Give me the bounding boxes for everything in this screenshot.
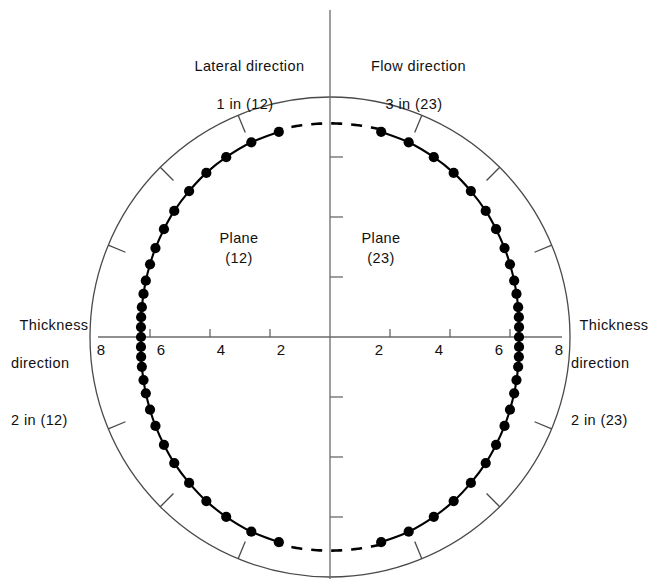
data-point-left-20: [145, 405, 155, 415]
label-plane-12-line2: (12): [225, 250, 252, 266]
data-point-right-12: [514, 312, 524, 322]
data-point-left-24: [184, 478, 194, 488]
data-point-right-13: [514, 322, 524, 332]
data-point-left-28: [274, 537, 284, 547]
label-thickness-right-line1: Thickness: [580, 317, 649, 333]
data-point-right-10: [511, 289, 521, 299]
data-point-left-16: [136, 352, 146, 362]
data-point-left-2: [221, 152, 231, 162]
data-point-right-23: [481, 458, 491, 468]
data-point-right-26: [429, 512, 439, 522]
label-thickness-left-line3: 2 in (12): [11, 411, 103, 430]
data-point-right-2: [429, 152, 439, 162]
data-point-left-3: [201, 168, 211, 178]
data-point-left-14: [136, 332, 146, 342]
data-point-left-13: [136, 322, 146, 332]
data-point-right-1: [404, 137, 414, 147]
data-point-left-7: [150, 243, 160, 253]
radial-tick-6: [108, 422, 125, 429]
data-point-left-18: [138, 375, 148, 385]
data-point-right-19: [509, 388, 519, 398]
radial-tick-7: [160, 494, 173, 507]
data-point-right-18: [511, 375, 521, 385]
label-flow-direction-line1: Flow direction: [371, 58, 466, 74]
data-point-left-4: [184, 186, 194, 196]
label-flow-direction: Flow direction 3 in (23): [336, 38, 492, 133]
label-plane-12-line1: Plane: [219, 230, 258, 246]
label-plane-23-line1: Plane: [361, 230, 400, 246]
data-point-left-12: [136, 312, 146, 322]
label-thickness-left-line2: direction: [11, 354, 103, 373]
radial-tick-0: [535, 245, 552, 252]
radial-tick-9: [415, 542, 422, 559]
data-point-right-9: [509, 276, 519, 286]
data-point-right-6: [491, 224, 501, 234]
data-point-right-14: [514, 332, 524, 342]
data-point-right-20: [505, 405, 515, 415]
radial-tick-5: [108, 245, 125, 252]
plot-area: [90, 10, 570, 579]
label-thickness-direction-left: Thickness direction 2 in (12): [11, 297, 103, 449]
label-thickness-right-line3: 2 in (23): [571, 411, 659, 430]
radial-tick-4: [160, 167, 173, 180]
data-point-right-5: [481, 206, 491, 216]
data-point-right-4: [466, 186, 476, 196]
label-flow-direction-line2: 3 in (23): [336, 95, 492, 114]
axis-label-left-8: 8: [91, 341, 111, 358]
data-point-left-21: [150, 421, 160, 431]
radial-tick-10: [487, 494, 500, 507]
data-point-left-23: [169, 458, 179, 468]
axis-label-right-4: 4: [429, 341, 449, 358]
data-point-right-25: [449, 496, 459, 506]
radial-tick-1: [487, 167, 500, 180]
data-point-right-17: [513, 362, 523, 372]
data-point-left-26: [221, 512, 231, 522]
axis-label-left-4: 4: [211, 341, 231, 358]
label-lateral-direction-line2: 1 in (12): [164, 95, 326, 114]
label-plane-23-line2: (23): [367, 250, 394, 266]
data-point-left-25: [201, 496, 211, 506]
data-point-left-22: [159, 440, 169, 450]
data-point-right-21: [499, 421, 509, 431]
data-point-right-22: [491, 440, 501, 450]
axis-label-left-6: 6: [151, 341, 171, 358]
radial-tick-11: [535, 422, 552, 429]
label-lateral-direction-line1: Lateral direction: [194, 58, 304, 74]
data-point-left-27: [246, 527, 256, 537]
polar-anisotropy-figure: [0, 0, 659, 583]
axis-label-right-2: 2: [369, 341, 389, 358]
data-point-right-15: [514, 342, 524, 352]
data-point-right-8: [505, 259, 515, 269]
data-point-left-11: [137, 302, 147, 312]
label-thickness-direction-right: Thickness direction 2 in (23): [571, 297, 659, 449]
data-point-right-28: [376, 537, 386, 547]
axis-label-left-2: 2: [271, 341, 291, 358]
data-point-left-17: [137, 362, 147, 372]
data-point-left-5: [169, 206, 179, 216]
data-point-right-11: [513, 302, 523, 312]
data-point-left-15: [136, 342, 146, 352]
label-thickness-right-line2: direction: [571, 354, 659, 373]
axis-label-right-8: 8: [549, 341, 569, 358]
data-point-left-8: [145, 259, 155, 269]
data-point-right-7: [499, 243, 509, 253]
data-point-left-1: [246, 137, 256, 147]
data-point-left-9: [141, 276, 151, 286]
data-point-right-3: [449, 168, 459, 178]
label-plane-23: Plane (23): [340, 228, 422, 268]
data-point-left-19: [141, 388, 151, 398]
data-point-right-24: [466, 478, 476, 488]
label-thickness-left-line1: Thickness: [20, 317, 89, 333]
label-plane-12: Plane (12): [198, 228, 280, 268]
data-point-right-27: [404, 527, 414, 537]
data-point-left-6: [159, 224, 169, 234]
axis-label-right-6: 6: [489, 341, 509, 358]
data-point-right-16: [514, 352, 524, 362]
label-lateral-direction: Lateral direction 1 in (12): [164, 38, 326, 133]
data-point-left-10: [138, 289, 148, 299]
radial-tick-8: [238, 542, 245, 559]
